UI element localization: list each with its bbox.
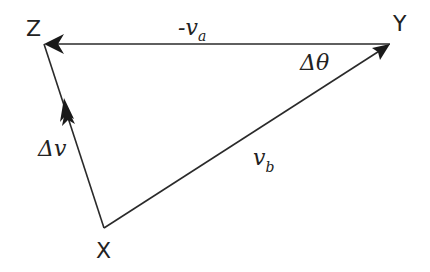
label-delta-v: Δv <box>37 136 67 161</box>
label-neg-va-main: v <box>185 15 198 40</box>
vertex-label-z: Z <box>26 16 41 41</box>
label-vb: vb <box>253 145 274 175</box>
label-vb-main: v <box>253 145 266 170</box>
label-neg-va: -va <box>178 15 206 44</box>
arrowhead-y-icon <box>372 44 390 60</box>
edge-neg-va <box>44 34 390 54</box>
label-neg-va-sign: - <box>178 15 185 40</box>
label-delta-theta: Δθ <box>299 50 329 75</box>
vertex-label-x: X <box>96 238 111 263</box>
vertex-label-y: Y <box>392 11 407 36</box>
label-vb-sub: b <box>265 159 274 175</box>
label-neg-va-sub: a <box>198 28 206 44</box>
edge-vb <box>104 44 390 228</box>
vector-triangle-diagram: Z Y X -va vb Δv Δθ <box>0 0 430 272</box>
